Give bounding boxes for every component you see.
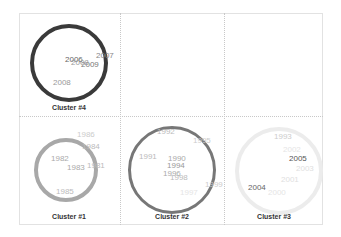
year-label: 2004 bbox=[248, 184, 266, 192]
year-label: 1995 bbox=[193, 137, 211, 145]
year-label: 1986 bbox=[77, 131, 95, 139]
year-label: 1999 bbox=[205, 181, 223, 189]
year-label: 2000 bbox=[268, 189, 286, 197]
year-label: 2005 bbox=[289, 155, 307, 163]
year-label: 1991 bbox=[139, 153, 157, 161]
year-label: 2007 bbox=[96, 52, 114, 60]
year-label: 2001 bbox=[281, 176, 299, 184]
year-label: 2002 bbox=[283, 146, 301, 154]
year-label: 1982 bbox=[51, 155, 69, 163]
year-label: 1985 bbox=[56, 188, 74, 196]
cluster-title-3: Cluster #3 bbox=[257, 213, 291, 220]
grid-divider-vertical-2 bbox=[224, 13, 225, 225]
year-label: 1998 bbox=[170, 174, 188, 182]
cluster-title-1: Cluster #1 bbox=[52, 213, 86, 220]
year-label: 1992 bbox=[157, 128, 175, 136]
year-label: 1997 bbox=[180, 189, 198, 197]
year-label: 2008 bbox=[71, 59, 89, 67]
year-label: 2008 bbox=[53, 79, 71, 87]
year-label: 1984 bbox=[82, 143, 100, 151]
year-label: 1981 bbox=[87, 162, 105, 170]
year-label: 1983 bbox=[67, 164, 85, 172]
year-label: 2003 bbox=[296, 165, 314, 173]
cluster-title-2: Cluster #2 bbox=[155, 213, 189, 220]
cluster-title-4: Cluster #4 bbox=[52, 104, 86, 111]
year-label: 1993 bbox=[274, 133, 292, 141]
grid-divider-vertical-1 bbox=[120, 13, 121, 225]
grid-divider-horizontal bbox=[19, 116, 323, 117]
